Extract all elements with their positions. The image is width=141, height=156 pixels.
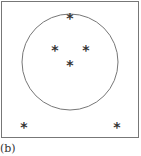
asterisk-point: * [82,42,90,58]
asterisk-point: * [66,57,74,73]
figure-label: (b) [0,142,16,155]
asterisk-point: * [113,119,121,135]
asterisk-point: * [20,119,28,135]
asterisk-point: * [66,10,74,26]
asterisk-point: * [51,42,59,58]
diagram-canvas: ****** [0,0,141,156]
